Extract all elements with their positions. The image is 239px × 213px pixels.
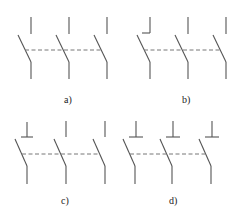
pole-1: [18, 17, 31, 79]
pole-2: [160, 121, 180, 184]
switch-diagram: a) b): [0, 0, 239, 213]
panel-label-a: a): [64, 94, 72, 106]
panel-d: d): [123, 121, 219, 207]
pole-1: [15, 122, 33, 184]
panel-label-b: b): [182, 94, 190, 106]
panel-c: c): [15, 121, 105, 207]
panel-label-c: c): [61, 195, 69, 207]
pole-3: [93, 121, 105, 184]
pole-3: [199, 121, 219, 184]
pole-1: [123, 121, 143, 184]
pole-2: [54, 121, 66, 184]
pole-3: [94, 17, 107, 79]
panel-a: a): [18, 17, 107, 106]
panel-label-d: d): [169, 195, 177, 207]
pole-2: [175, 17, 188, 79]
panel-b: b): [137, 17, 226, 106]
pole-2: [56, 17, 69, 79]
pole-3: [213, 17, 226, 79]
pole-1: [137, 17, 150, 79]
